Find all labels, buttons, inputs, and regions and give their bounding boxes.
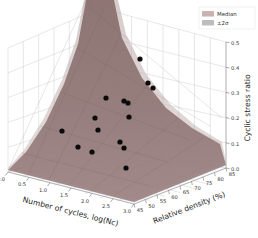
- surface-plot-figure: 0.0 0.1 0.2 0.3 0.4 0.5 Cyclic stress ra…: [0, 0, 258, 238]
- data-point: [125, 100, 130, 105]
- legend[interactable]: Median ±2σ: [199, 7, 255, 29]
- data-point: [137, 56, 142, 61]
- y-tick-label: 70: [194, 185, 201, 191]
- z-tick-label: 0.4: [231, 65, 240, 71]
- x-tick-label: 1.0: [39, 187, 47, 193]
- data-point: [92, 115, 97, 120]
- z-tick-label: 0.2: [231, 115, 239, 121]
- y-tick-label: 60: [171, 194, 178, 200]
- median-swatch: [202, 11, 214, 17]
- x-tick-label: 1.5: [60, 192, 68, 198]
- data-point: [89, 149, 94, 154]
- y-tick-label: 45: [137, 207, 144, 213]
- legend-label-median: Median: [217, 11, 237, 17]
- x-tick-label: 3.0: [123, 208, 131, 214]
- data-point: [103, 95, 108, 100]
- sigma-swatch: [202, 20, 214, 26]
- data-point: [123, 165, 128, 170]
- data-point: [95, 127, 100, 132]
- data-point: [121, 145, 126, 150]
- x-tick-label: 0.0: [0, 176, 5, 182]
- data-point: [126, 114, 131, 119]
- y-tick-label: 80: [217, 176, 224, 182]
- y-tick-label: 55: [160, 198, 167, 204]
- data-point: [75, 144, 80, 149]
- y-tick-label: 65: [183, 189, 190, 195]
- y-tick-label: 85: [229, 171, 236, 177]
- x-tick-label: 0.5: [18, 181, 26, 187]
- z-tick-label: 0.1: [231, 141, 239, 147]
- data-point: [117, 139, 122, 144]
- data-point: [145, 80, 150, 85]
- data-point: [150, 85, 155, 90]
- y-tick-label: 50: [148, 203, 155, 209]
- y-tick-label: 75: [206, 180, 213, 186]
- z-tick-label: 0.3: [231, 90, 239, 96]
- data-point: [59, 128, 64, 133]
- x-tick-label: 2.0: [81, 198, 89, 204]
- x-tick-label: 2.5: [102, 203, 110, 209]
- z-axis-title: Cyclic stress ratio: [243, 74, 252, 142]
- legend-label-sigma: ±2σ: [217, 20, 229, 26]
- z-tick-label: 0.5: [231, 40, 239, 46]
